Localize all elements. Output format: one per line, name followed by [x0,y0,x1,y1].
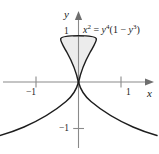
equation-annotation: x2 = y4(1 − y3) [83,24,140,35]
x-tick-label-positive-one: 1 [126,88,131,98]
equation-one: 1 [113,24,118,35]
equation-equals: = [93,24,99,35]
y-axis-label: y [64,9,69,20]
equation-close-paren: ) [136,24,139,35]
equation-minus: − [120,24,126,35]
x-axis-arrowhead [145,78,154,85]
curve-plot-figure: y x 1 −1 1 −1 x2 = y4(1 − y3) [0,0,159,154]
y-tick-label-negative-one: −1 [59,124,69,134]
x-tick-label-negative-one: −1 [26,88,36,98]
equation-lhs-exponent: 2 [87,23,91,31]
y-tick-label-positive-one: 1 [64,27,69,37]
x-axis-label: x [147,88,152,99]
y-axis-arrowhead [75,11,82,20]
curve-lower-branch-right [79,82,158,136]
